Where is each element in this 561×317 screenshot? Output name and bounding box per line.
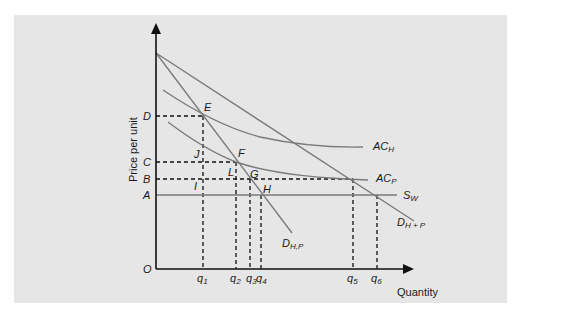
curve-label-d-h-plus-p: DH + P [397, 216, 426, 230]
quantity-label-q5: q5 [347, 272, 358, 286]
origin-label: O [143, 263, 152, 275]
point-label-e: E [204, 101, 212, 113]
curve-d-h-p [156, 53, 292, 233]
price-label-b: B [143, 173, 150, 185]
quantity-label-q2: q2 [230, 272, 241, 286]
quantity-label-q4: q4 [256, 272, 267, 286]
economics-diagram: D C B A O Price per unit Quantity q1 q2 … [0, 0, 561, 317]
curve-label-ac-h: ACH [372, 140, 394, 154]
curve-d-h-plus-p [156, 53, 414, 221]
point-label-j: J [193, 148, 200, 160]
point-label-l: L [228, 166, 234, 178]
price-label-d: D [143, 110, 151, 122]
curve-ac-h [163, 90, 363, 147]
point-label-g: G [250, 168, 259, 180]
y-axis-title: Price per unit [127, 117, 139, 182]
y-axis-arrow-icon [151, 23, 161, 34]
curve-label-ac-p: ACP [375, 172, 397, 186]
quantity-label-q1: q1 [197, 272, 208, 286]
curve-label-d-h-p: DH,P [282, 237, 304, 251]
quantity-label-q6: q6 [371, 272, 382, 286]
curve-label-s-w: SW [403, 189, 419, 203]
point-label-h: H [263, 183, 271, 195]
x-axis-arrow-icon [403, 264, 414, 274]
point-label-f: F [238, 147, 246, 159]
x-axis-title: Quantity [397, 286, 438, 298]
price-label-c: C [143, 156, 151, 168]
price-label-a: A [142, 189, 150, 201]
point-label-i: I [194, 180, 197, 192]
